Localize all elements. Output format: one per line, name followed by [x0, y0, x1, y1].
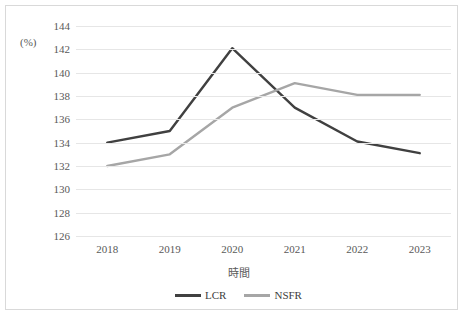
y-axis-tick-label: 142	[40, 44, 70, 55]
y-axis-tick-label: 136	[40, 114, 70, 125]
gridline	[76, 236, 451, 237]
gridline	[76, 73, 451, 74]
y-axis-tick-label: 134	[40, 138, 70, 149]
legend-swatch-icon	[244, 294, 270, 297]
legend-item-nsfr[interactable]: NSFR	[244, 289, 302, 301]
gridline	[76, 166, 451, 167]
legend-label: NSFR	[274, 289, 302, 301]
x-axis-title: 時間	[6, 264, 465, 280]
gridline	[76, 49, 451, 50]
x-axis-tick-label: 2022	[327, 244, 387, 255]
gridline	[76, 143, 451, 144]
gridline	[76, 213, 451, 214]
chart-container: (%) 126128130132134136138140142144 20182…	[5, 5, 458, 310]
series-lines	[76, 26, 451, 236]
gridline	[76, 26, 451, 27]
legend-label: LCR	[205, 289, 226, 301]
plot-area	[76, 26, 451, 236]
legend-swatch-icon	[175, 294, 201, 297]
y-axis-tick-label: 126	[40, 231, 70, 242]
y-axis-tick-label: 138	[40, 91, 70, 102]
x-axis-tick-label: 2020	[202, 244, 262, 255]
y-axis-title: (%)	[20, 36, 37, 48]
gridline	[76, 189, 451, 190]
y-axis-tick-label: 128	[40, 208, 70, 219]
x-axis-tick-label: 2023	[390, 244, 450, 255]
gridline	[76, 96, 451, 97]
legend-item-lcr[interactable]: LCR	[175, 289, 226, 301]
y-axis-tick-label: 132	[40, 161, 70, 172]
gridline	[76, 119, 451, 120]
y-axis-tick-label: 144	[40, 21, 70, 32]
series-line-lcr	[107, 48, 420, 153]
x-axis-tick-label: 2018	[77, 244, 137, 255]
y-axis-tick-label: 130	[40, 184, 70, 195]
x-axis-tick-label: 2021	[265, 244, 325, 255]
y-axis-tick-label: 140	[40, 68, 70, 79]
chart-legend: LCRNSFR	[6, 289, 465, 301]
x-axis-tick-label: 2019	[140, 244, 200, 255]
